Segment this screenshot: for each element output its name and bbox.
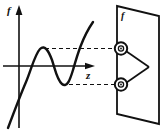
function-curve — [8, 22, 93, 128]
lower-node — [115, 78, 127, 90]
figure-container: f z f — [0, 0, 165, 134]
vertical-axis-arrowhead — [16, 5, 23, 15]
vertical-axis-label: f — [7, 4, 12, 16]
upper-node — [115, 42, 127, 54]
horizontal-axis-label: z — [85, 69, 91, 81]
figure-canvas: f z f — [0, 0, 165, 134]
coordinate-axes — [3, 5, 95, 128]
projection-plane: f — [117, 6, 159, 124]
projection-plane-outline — [117, 6, 159, 124]
lower-node-center-dot — [120, 84, 122, 86]
upper-node-center-dot — [120, 48, 122, 50]
